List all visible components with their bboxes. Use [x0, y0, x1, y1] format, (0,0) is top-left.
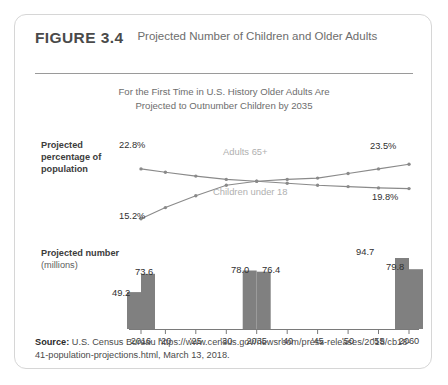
- line-marker: [164, 171, 167, 174]
- bar-value-2060-children: 79.8: [386, 261, 404, 272]
- line-marker: [346, 185, 349, 188]
- figure-subtitle: For the First Time in U.S. History Older…: [15, 85, 433, 112]
- series-label-adults-65-plus: Adults 65+: [223, 146, 268, 157]
- bar-panel-axis-title: Projected number (millions): [41, 247, 121, 271]
- line-panel-axis-title: Projected percentage of population: [41, 139, 121, 176]
- children-end-value: 19.8%: [372, 192, 398, 202]
- subtitle-line-2: Projected to Outnumber Children by 2035: [15, 99, 433, 113]
- line-marker: [407, 163, 410, 166]
- subtitle-line-1: For the First Time in U.S. History Older…: [15, 85, 433, 99]
- line-marker: [316, 176, 319, 179]
- bar-2035-children-under-18: [257, 272, 271, 329]
- line-marker: [194, 174, 197, 177]
- line-marker: [164, 206, 167, 209]
- line-panel-axis-title-text: Projected percentage of population: [41, 140, 101, 174]
- children-start-value: 22.8%: [119, 140, 145, 150]
- line-marker: [255, 180, 258, 183]
- line-marker: [286, 182, 289, 185]
- line-marker: [316, 184, 319, 187]
- bar-value-2035-children: 76.4: [262, 264, 280, 275]
- line-marker: [377, 167, 380, 170]
- source-text: U.S. Census Bureau https://www.census.go…: [35, 337, 410, 360]
- line-marker: [255, 180, 258, 183]
- source-note: Source: U.S. Census Bureau https://www.c…: [35, 336, 415, 361]
- figure-card: FIGURE 3.4 Projected Number of Children …: [14, 14, 432, 369]
- bar-value-2060-adults: 94.7: [356, 246, 374, 257]
- line-marker: [346, 172, 349, 175]
- bar-panel-axis-units: (millions): [41, 260, 78, 270]
- adults-end-value: 23.5%: [370, 141, 396, 151]
- series-label-children-under-18: Children under 18: [213, 186, 288, 197]
- line-marker: [225, 178, 228, 181]
- line-marker: [407, 187, 410, 190]
- bar-2035-adults-65-plus: [243, 271, 257, 330]
- figure-header: FIGURE 3.4 Projected Number of Children …: [35, 29, 413, 45]
- line-marker: [286, 178, 289, 181]
- line-marker: [377, 186, 380, 189]
- bar-value-2016-children: 73.6: [135, 266, 153, 277]
- bar-value-2016-adults: 49.2: [112, 287, 130, 298]
- source-label: Source:: [35, 337, 69, 347]
- bar-2060-children-under-18: [409, 269, 423, 329]
- bar-2016-children-under-18: [141, 274, 155, 329]
- bar-panel-axis-title-text: Projected number: [41, 248, 119, 258]
- bar-value-2035-adults: 78.0: [231, 264, 249, 275]
- title-divider: [35, 73, 413, 74]
- figure-title: Projected Number of Children and Older A…: [137, 29, 377, 44]
- line-marker: [139, 167, 142, 170]
- x-axis-layer: [129, 330, 419, 335]
- figure-number: FIGURE 3.4: [35, 29, 123, 45]
- line-marker: [194, 194, 197, 197]
- adults-start-value: 15.2%: [119, 211, 145, 221]
